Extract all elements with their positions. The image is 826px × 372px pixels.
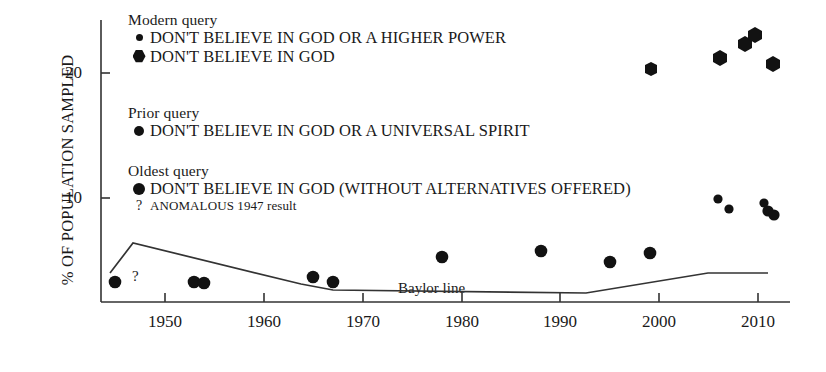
series-modern-small-dot-markers [713, 194, 768, 213]
y-axis-ticks [101, 73, 110, 198]
series-modern-hexagon-markers [645, 27, 780, 76]
x-axis-ticks [165, 293, 758, 302]
series-oldest-query-markers [109, 245, 657, 290]
chart-figure: % OF POPULATION SAMPLED 20 10 1950 1960 … [0, 0, 826, 372]
plot-area [0, 0, 826, 372]
series-prior-query-markers [762, 205, 779, 220]
